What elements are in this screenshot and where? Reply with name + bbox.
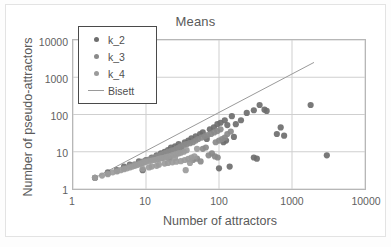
- x-tick-label: 1: [42, 195, 102, 207]
- y-tick-label: 100: [26, 111, 68, 122]
- x-tick-label: 10: [115, 195, 175, 207]
- legend-line-icon: [87, 90, 105, 91]
- legend-label: k_4: [105, 68, 125, 80]
- legend-label: Bisett: [105, 85, 134, 97]
- y-tick-label: 1000: [26, 74, 68, 85]
- legend-dot-icon: [87, 71, 105, 76]
- y-tick-label: 10: [26, 148, 68, 159]
- y-tick-label: 10000: [26, 37, 68, 48]
- scatter-points: [92, 102, 330, 181]
- legend-item-k3: k_3: [79, 48, 156, 65]
- legend-dot-icon: [87, 37, 105, 42]
- x-tick-label: 10000: [336, 195, 391, 207]
- legend-label: k_3: [105, 51, 125, 63]
- legend-item-k2: k_2: [79, 31, 156, 48]
- legend-item-k4: k_4: [79, 65, 156, 82]
- chart-figure: Means Number of pseudo-attractors 10000 …: [0, 0, 391, 247]
- legend-label: k_2: [105, 34, 125, 46]
- x-axis-title: Number of attractors: [60, 214, 380, 228]
- legend-item-bisett: Bisett: [79, 82, 156, 99]
- x-tick-label: 100: [189, 195, 249, 207]
- x-axis-tick-labels: 1 10 100 1000 10000: [0, 195, 391, 211]
- x-tick-label: 1000: [262, 195, 322, 207]
- legend-dot-icon: [87, 54, 105, 59]
- legend: k_2 k_3 k_4 Bisett: [78, 26, 157, 104]
